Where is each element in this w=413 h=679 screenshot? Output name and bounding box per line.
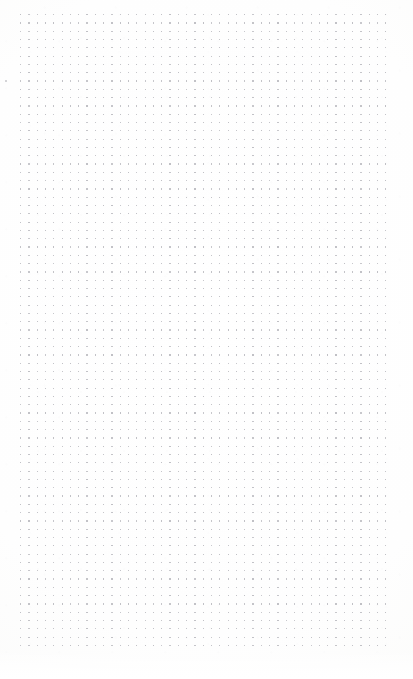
grid-dot <box>369 446 370 447</box>
grid-dot <box>252 263 253 264</box>
grid-dot <box>377 578 378 579</box>
grid-dot <box>203 147 204 148</box>
grid-dot <box>86 188 87 189</box>
grid-dot <box>128 529 129 530</box>
grid-dot <box>327 379 328 380</box>
grid-dot <box>53 388 54 389</box>
grid-dot <box>120 114 121 115</box>
grid-dot <box>219 56 220 57</box>
grid-dot <box>103 172 104 173</box>
grid-dot <box>311 80 312 81</box>
grid-dot <box>335 570 336 571</box>
grid-dot <box>169 587 170 588</box>
grid-dot <box>286 346 287 347</box>
dot-grid-row <box>20 329 394 330</box>
grid-dot <box>53 545 54 546</box>
grid-dot <box>78 280 79 281</box>
grid-dot <box>352 396 353 397</box>
grid-dot <box>153 180 154 181</box>
grid-dot <box>385 446 386 447</box>
grid-dot <box>153 479 154 480</box>
grid-dot <box>377 72 378 73</box>
grid-dot <box>111 39 112 40</box>
grid-dot <box>236 412 237 413</box>
grid-dot <box>111 363 112 364</box>
grid-dot <box>153 462 154 463</box>
grid-dot <box>369 371 370 372</box>
grid-dot <box>203 363 204 364</box>
grid-dot <box>161 338 162 339</box>
grid-dot <box>194 371 195 372</box>
grid-dot <box>277 504 278 505</box>
grid-dot <box>186 213 187 214</box>
grid-dot <box>45 587 46 588</box>
grid-dot <box>286 495 287 496</box>
grid-dot <box>211 329 212 330</box>
dot-grid-row <box>20 437 394 438</box>
grid-dot <box>327 437 328 438</box>
grid-dot <box>136 388 137 389</box>
grid-dot <box>70 139 71 140</box>
grid-dot <box>86 230 87 231</box>
grid-dot <box>369 471 370 472</box>
grid-dot <box>252 288 253 289</box>
grid-dot <box>128 388 129 389</box>
grid-dot <box>103 305 104 306</box>
grid-dot <box>111 620 112 621</box>
grid-dot <box>136 56 137 57</box>
grid-dot <box>37 388 38 389</box>
grid-dot <box>286 421 287 422</box>
grid-dot <box>194 47 195 48</box>
grid-dot <box>186 504 187 505</box>
grid-dot <box>178 163 179 164</box>
grid-dot <box>62 105 63 106</box>
grid-dot <box>219 645 220 646</box>
grid-dot <box>128 346 129 347</box>
grid-dot <box>319 97 320 98</box>
grid-dot <box>111 105 112 106</box>
grid-dot <box>286 587 287 588</box>
grid-dot <box>153 495 154 496</box>
grid-dot <box>211 504 212 505</box>
grid-dot <box>360 379 361 380</box>
grid-dot <box>62 80 63 81</box>
grid-dot <box>120 587 121 588</box>
grid-dot <box>302 39 303 40</box>
grid-dot <box>70 205 71 206</box>
grid-dot <box>70 354 71 355</box>
grid-dot <box>203 22 204 23</box>
grid-dot <box>261 172 262 173</box>
grid-dot <box>45 288 46 289</box>
grid-dot <box>236 105 237 106</box>
grid-dot <box>269 246 270 247</box>
grid-dot <box>286 628 287 629</box>
grid-dot <box>136 288 137 289</box>
grid-dot <box>377 172 378 173</box>
grid-dot <box>70 645 71 646</box>
grid-dot <box>37 421 38 422</box>
grid-dot <box>219 520 220 521</box>
grid-dot <box>286 446 287 447</box>
grid-dot <box>360 172 361 173</box>
grid-dot <box>252 147 253 148</box>
grid-dot <box>228 437 229 438</box>
grid-dot <box>95 578 96 579</box>
grid-dot <box>385 114 386 115</box>
grid-dot <box>244 512 245 513</box>
grid-dot <box>37 47 38 48</box>
grid-dot <box>136 645 137 646</box>
grid-dot <box>153 122 154 123</box>
grid-dot <box>244 56 245 57</box>
grid-dot <box>103 354 104 355</box>
grid-dot <box>277 313 278 314</box>
grid-dot <box>95 205 96 206</box>
grid-dot <box>53 504 54 505</box>
grid-dot <box>136 122 137 123</box>
grid-dot <box>120 47 121 48</box>
grid-dot <box>145 80 146 81</box>
grid-dot <box>277 462 278 463</box>
grid-dot <box>211 454 212 455</box>
grid-dot <box>136 612 137 613</box>
grid-dot <box>244 255 245 256</box>
grid-dot <box>228 487 229 488</box>
